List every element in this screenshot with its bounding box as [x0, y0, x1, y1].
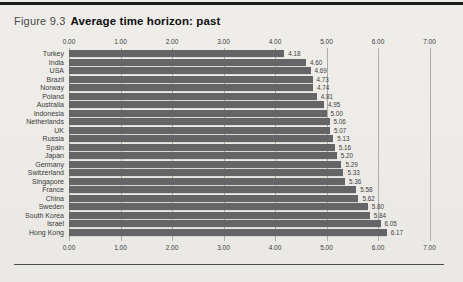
- value-label: 5.84: [374, 213, 386, 220]
- bar: [69, 212, 370, 219]
- value-label: 6.17: [391, 230, 403, 237]
- value-label: 5.33: [347, 170, 359, 177]
- bar: [69, 50, 284, 57]
- bar: [69, 161, 341, 168]
- bar-row: Russia5.13: [0, 135, 463, 144]
- bar: [69, 186, 356, 193]
- bar-row: Hong Kong6.17: [0, 228, 463, 237]
- country-label: China: [46, 195, 64, 203]
- value-label: 5.06: [334, 119, 346, 126]
- x-tick-label-bottom: 0.00: [63, 244, 76, 251]
- bar-row: Netherlands5.06: [0, 118, 463, 127]
- value-label: 5.62: [362, 196, 374, 203]
- bar: [69, 195, 358, 202]
- country-label: Switzerland: [28, 169, 64, 177]
- bar: [69, 144, 335, 151]
- value-label: 6.05: [385, 221, 397, 228]
- bar: [69, 127, 330, 134]
- country-label: Brazil: [46, 76, 64, 84]
- value-label: 4.81: [321, 94, 333, 101]
- country-label: India: [49, 59, 64, 67]
- bar-row: UK5.07: [0, 126, 463, 135]
- value-label: 5.16: [339, 145, 351, 152]
- bar-row: Switzerland5.33: [0, 169, 463, 178]
- bar: [69, 203, 368, 210]
- country-label: Hong Kong: [29, 229, 64, 237]
- x-tick-label-top: 6.00: [372, 38, 385, 45]
- x-tick-label-top: 0.00: [63, 38, 76, 45]
- bar-row: Brazil4.73: [0, 75, 463, 84]
- country-label: France: [42, 186, 64, 194]
- country-label: Indonesia: [34, 110, 64, 118]
- bar: [69, 84, 313, 91]
- bottom-rule-divider: [14, 264, 444, 265]
- x-tick-label-top: 1.00: [114, 38, 127, 45]
- bar: [69, 118, 330, 125]
- country-label: Norway: [40, 84, 64, 92]
- bar-row: Germany5.29: [0, 160, 463, 169]
- bar-row: South Korea5.84: [0, 211, 463, 220]
- bar-row: Poland4.81: [0, 92, 463, 101]
- value-label: 5.80: [372, 204, 384, 211]
- x-tick-label-top: 7.00: [423, 38, 436, 45]
- bar-row: China5.62: [0, 194, 463, 203]
- x-tick-label-bottom: 1.00: [114, 244, 127, 251]
- value-label: 5.36: [349, 179, 361, 186]
- x-tick-label-top: 2.00: [166, 38, 179, 45]
- bar-row: Indonesia5.00: [0, 109, 463, 118]
- x-tick-label-bottom: 5.00: [320, 244, 333, 251]
- country-label: Turkey: [43, 50, 64, 58]
- bar-row: Sweden5.80: [0, 203, 463, 212]
- x-tick-label-bottom: 7.00: [423, 244, 436, 251]
- bar: [69, 169, 343, 176]
- bar-row: Norway4.74: [0, 84, 463, 93]
- bar: [69, 101, 324, 108]
- x-tick-label-top: 4.00: [269, 38, 282, 45]
- bar: [69, 76, 313, 83]
- country-label: Japan: [45, 152, 64, 160]
- bar: [69, 152, 337, 159]
- country-label: Netherlands: [26, 118, 64, 126]
- bar-row: USA4.69: [0, 67, 463, 76]
- country-label: USA: [50, 67, 64, 75]
- country-label: Russia: [43, 135, 64, 143]
- country-label: Singapore: [32, 178, 64, 186]
- country-label: South Korea: [25, 212, 64, 220]
- country-label: Australia: [37, 101, 64, 109]
- bar: [69, 135, 333, 142]
- value-label: 5.20: [341, 153, 353, 160]
- bar: [69, 229, 387, 236]
- x-tick-label-bottom: 4.00: [269, 244, 282, 251]
- value-label: 4.73: [317, 77, 329, 84]
- country-label: UK: [54, 127, 64, 135]
- bar-chart: 0.000.001.001.002.002.003.003.004.004.00…: [0, 0, 463, 282]
- x-tick-label-top: 3.00: [217, 38, 230, 45]
- value-label: 5.58: [360, 187, 372, 194]
- bar-row: France5.58: [0, 186, 463, 195]
- value-label: 4.18: [288, 51, 300, 58]
- bar: [69, 220, 381, 227]
- value-label: 5.13: [337, 136, 349, 143]
- bar-row: Israel6.05: [0, 220, 463, 229]
- value-label: 4.74: [317, 85, 329, 92]
- country-label: Poland: [42, 93, 64, 101]
- value-label: 4.95: [328, 102, 340, 109]
- value-label: 4.60: [310, 60, 322, 67]
- bar: [69, 67, 311, 74]
- bar-row: Japan5.20: [0, 152, 463, 161]
- x-tick-label-bottom: 3.00: [217, 244, 230, 251]
- bar: [69, 110, 327, 117]
- bar-row: Spain5.16: [0, 143, 463, 152]
- country-label: Israel: [47, 220, 64, 228]
- x-tick-label-bottom: 2.00: [166, 244, 179, 251]
- bar-row: Australia4.95: [0, 101, 463, 110]
- country-label: Spain: [46, 144, 64, 152]
- x-tick-label-bottom: 6.00: [372, 244, 385, 251]
- country-label: Sweden: [39, 203, 64, 211]
- x-tick-label-top: 5.00: [320, 38, 333, 45]
- value-label: 5.00: [331, 111, 343, 118]
- scanned-book-page: Figure 9.3Average time horizon: past 0.0…: [0, 0, 463, 282]
- bar: [69, 59, 306, 66]
- bar: [69, 178, 345, 185]
- bar: [69, 93, 317, 100]
